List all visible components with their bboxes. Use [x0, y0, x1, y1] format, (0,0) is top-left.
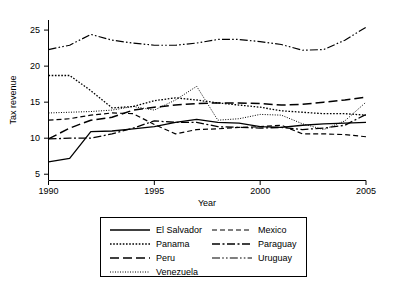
y-tick-label: 15	[30, 97, 40, 107]
legend-label-panama: Panama	[156, 239, 190, 249]
y-tick-label: 10	[30, 133, 40, 143]
legend-label-el-salvador: El Salvador	[156, 225, 202, 235]
x-tick-label: 1990	[38, 186, 58, 196]
legend-label-paraguay: Paraguay	[258, 239, 297, 249]
x-tick-label: 2000	[250, 186, 270, 196]
x-tick-label: 1995	[144, 186, 164, 196]
tax-revenue-line-chart: 510152025 1990199520002005 Tax revenue Y…	[0, 0, 393, 298]
x-axis-label: Year	[198, 198, 216, 208]
legend-label-venezuela: Venezuela	[156, 267, 198, 277]
legend: El SalvadorMexicoPanamaParaguayPeruUrugu…	[101, 218, 307, 278]
legend-label-uruguay: Uruguay	[258, 253, 293, 263]
legend-label-mexico: Mexico	[258, 225, 287, 235]
x-tick-label: 2005	[356, 186, 376, 196]
y-tick-label: 25	[30, 25, 40, 35]
legend-label-peru: Peru	[156, 253, 175, 263]
y-tick-label: 20	[30, 61, 40, 71]
y-tick-label: 5	[35, 169, 40, 179]
y-axis-label: Tax revenue	[8, 75, 18, 124]
